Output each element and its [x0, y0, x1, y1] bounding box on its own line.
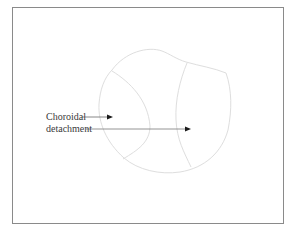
arrow-1-head	[107, 115, 113, 120]
left-detachment-curve	[112, 71, 150, 159]
globe-outline	[99, 49, 231, 173]
annotation-label-line2: detachment	[46, 123, 92, 134]
arrow-2-head	[185, 127, 191, 132]
right-detachment-curve	[176, 63, 191, 167]
annotation-label-line1: Choroidal	[46, 111, 86, 122]
eye-diagram	[0, 0, 292, 234]
